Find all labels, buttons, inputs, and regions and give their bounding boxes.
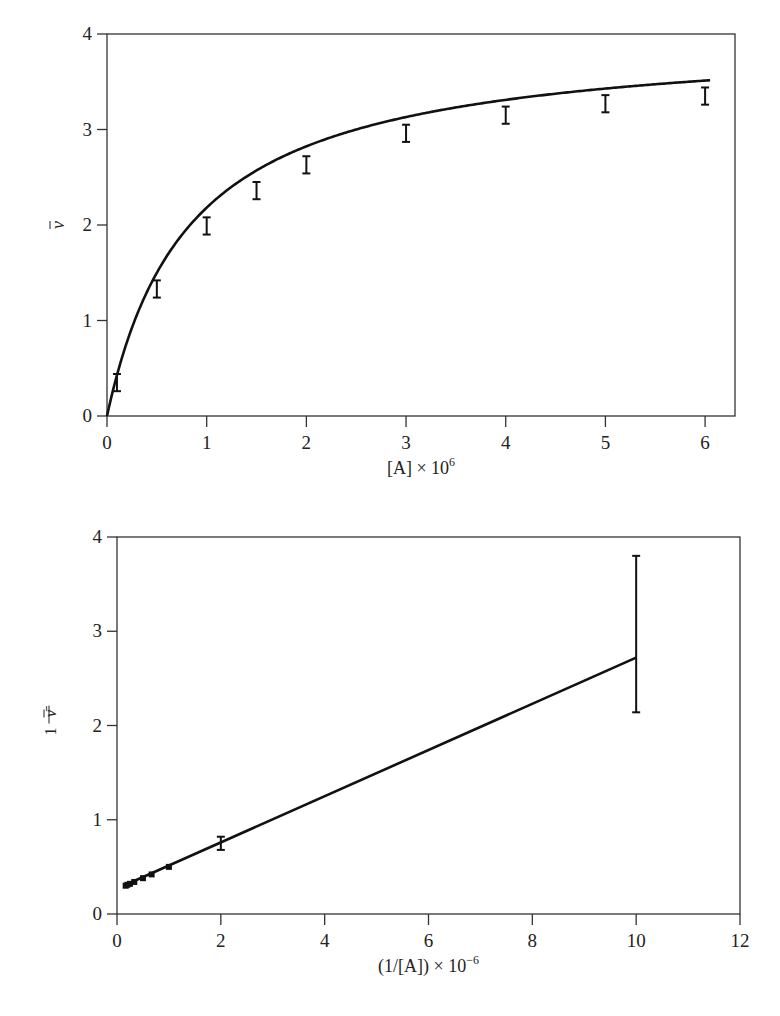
x-axis-label: [A] × 106 xyxy=(387,455,455,478)
svg-text:1: 1 xyxy=(42,728,59,736)
data-point xyxy=(166,864,172,870)
y-tick-label: 0 xyxy=(93,903,103,924)
y-tick-label: 4 xyxy=(83,23,93,44)
y-tick-label: 3 xyxy=(93,620,103,641)
error-bar xyxy=(203,217,211,234)
error-bar xyxy=(153,280,161,297)
data-point xyxy=(131,879,137,885)
svg-text:ν̄: ν̄ xyxy=(42,706,59,717)
y-tick-label: 1 xyxy=(93,809,103,830)
y-axis-label: ν̄1 xyxy=(42,706,59,736)
x-tick-label: 6 xyxy=(424,930,434,951)
error-bar xyxy=(402,125,410,142)
y-tick-label: 3 xyxy=(83,119,93,140)
y-tick-label: 2 xyxy=(93,715,103,736)
x-tick-label: 0 xyxy=(102,432,112,453)
x-axis-label: (1/[A]) × 10−6 xyxy=(378,953,479,977)
x-tick-label: 1 xyxy=(202,432,212,453)
double-reciprocal-plot: 01234024681012(1/[A]) × 10−6ν̄1 xyxy=(0,490,780,1016)
data-point xyxy=(149,871,155,877)
saturation-plot: 012340123456[A] × 106ν xyxy=(0,0,780,480)
x-tick-label: 8 xyxy=(528,930,538,951)
error-bar xyxy=(701,87,709,104)
x-tick-label: 4 xyxy=(501,432,511,453)
x-tick-label: 2 xyxy=(216,930,226,951)
y-tick-label: 0 xyxy=(83,405,93,426)
y-tick-label: 4 xyxy=(93,526,103,547)
y-tick-label: 1 xyxy=(83,310,93,331)
fit-line xyxy=(126,658,636,885)
error-bar xyxy=(601,95,609,112)
error-bar xyxy=(302,156,310,173)
x-tick-label: 4 xyxy=(320,930,330,951)
axes: 012340123456[A] × 106ν xyxy=(48,23,735,478)
plot-frame xyxy=(107,34,735,416)
x-tick-label: 0 xyxy=(112,930,122,951)
x-tick-label: 10 xyxy=(627,930,646,951)
svg-text:ν: ν xyxy=(48,221,68,229)
x-tick-label: 3 xyxy=(401,432,411,453)
saturation-chart: 012340123456[A] × 106ν xyxy=(0,0,780,480)
error-bar xyxy=(632,556,640,712)
y-tick-label: 2 xyxy=(83,214,93,235)
x-tick-label: 12 xyxy=(731,930,750,951)
data-point xyxy=(140,875,146,881)
x-tick-label: 6 xyxy=(700,432,710,453)
error-bar xyxy=(253,182,261,199)
double-reciprocal-chart: 01234024681012(1/[A]) × 10−6ν̄1 xyxy=(0,490,780,1016)
x-tick-label: 5 xyxy=(601,432,611,453)
y-axis-label: ν xyxy=(48,221,68,229)
axes: 01234024681012(1/[A]) × 10−6ν̄1 xyxy=(42,526,750,977)
fit-curve xyxy=(107,80,710,416)
error-bar xyxy=(502,107,510,124)
x-tick-label: 2 xyxy=(302,432,312,453)
plot-frame xyxy=(117,537,740,914)
